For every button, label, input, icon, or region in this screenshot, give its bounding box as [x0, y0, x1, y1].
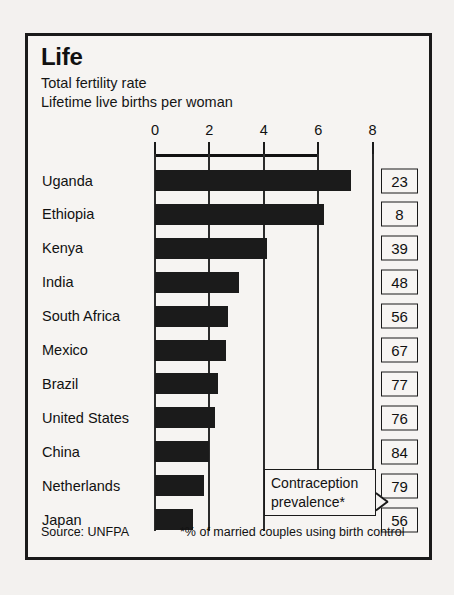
bar	[155, 475, 204, 496]
chart-frame: Life Total fertility rate Lifetime live …	[25, 33, 432, 560]
country-label: Netherlands	[42, 478, 120, 494]
bar	[155, 204, 324, 225]
callout-box: Contraception prevalence*	[264, 469, 376, 516]
x-tick-label: 4	[260, 122, 268, 138]
bar	[155, 373, 218, 394]
x-tick-mark	[263, 142, 265, 154]
country-label: South Africa	[42, 308, 120, 324]
x-tick-label: 8	[369, 122, 377, 138]
country-label: Uganda	[42, 173, 93, 189]
contraception-value-box: 8	[381, 202, 418, 227]
x-tick-mark	[372, 142, 374, 154]
axis-baseline	[155, 154, 318, 157]
bar	[155, 170, 351, 191]
scanned-page: Life Total fertility rate Lifetime live …	[0, 0, 454, 595]
contraception-value-box: 84	[381, 439, 418, 464]
country-label: Brazil	[42, 376, 78, 392]
footnote-label: *% of married couples using birth contro…	[180, 525, 404, 539]
x-tick-label: 2	[205, 122, 213, 138]
contraception-value-box: 48	[381, 270, 418, 295]
contraception-value-box: 77	[381, 371, 418, 396]
contraception-value-box: 56	[381, 304, 418, 329]
gridline	[317, 154, 319, 469]
country-label: Mexico	[42, 342, 88, 358]
page-title: Life	[41, 43, 82, 71]
chart-subtitle-line-2: Lifetime live births per woman	[41, 94, 233, 110]
country-label: Kenya	[42, 240, 83, 256]
x-tick-mark	[154, 142, 156, 154]
bar	[155, 238, 267, 259]
country-label: Ethiopia	[42, 206, 94, 222]
callout-line-1: Contraception	[271, 475, 358, 491]
x-tick-label: 0	[151, 122, 159, 138]
country-label: China	[42, 444, 80, 460]
bar	[155, 441, 209, 462]
bar	[155, 340, 226, 361]
contraception-value-box: 76	[381, 405, 418, 430]
chart-subtitle-line-1: Total fertility rate	[41, 75, 147, 91]
contraception-value-box: 39	[381, 236, 418, 261]
source-label: Source: UNFPA	[41, 525, 129, 539]
contraception-value-box: 23	[381, 168, 418, 193]
country-label: India	[42, 274, 73, 290]
bar	[155, 407, 215, 428]
gridline	[372, 154, 374, 469]
country-label: United States	[42, 410, 129, 426]
callout-line-2: prevalence*	[271, 494, 345, 510]
x-tick-mark	[208, 142, 210, 154]
x-tick-label: 6	[314, 122, 322, 138]
bar	[155, 272, 239, 293]
x-tick-mark	[317, 142, 319, 154]
contraception-value-box: 67	[381, 338, 418, 363]
bar	[155, 306, 228, 327]
